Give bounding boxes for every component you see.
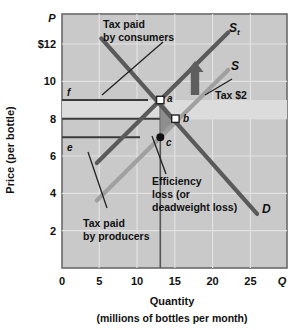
x-tick-25: 25 xyxy=(244,275,256,287)
y-axis-title: Price (per bottle) xyxy=(4,106,16,194)
y-tick-4: 4 xyxy=(50,187,57,199)
y-tick-10: 10 xyxy=(44,75,56,87)
tax-consumers-line2: by consumers xyxy=(103,31,174,43)
tax-producers-line2: by producers xyxy=(83,230,150,242)
point-a-marker xyxy=(157,96,164,103)
efficiency-loss-line3: deadweight loss) xyxy=(152,201,237,213)
annotation-tax-amount: Tax $2 xyxy=(215,89,247,101)
x-tick-10: 10 xyxy=(131,275,143,287)
x-axis-subtitle: (millions of bottles per month) xyxy=(96,312,247,324)
tax-consumers-line1: Tax paid xyxy=(103,18,145,30)
x-tick-5: 5 xyxy=(96,275,102,287)
point-b-marker xyxy=(172,115,179,122)
efficiency-loss-line2: loss (or xyxy=(152,188,190,200)
curve-label-st-sub: t xyxy=(237,28,240,37)
price-label-e: e xyxy=(67,142,73,153)
x-tick-20: 20 xyxy=(206,275,218,287)
x-axis-symbol: Q xyxy=(278,275,287,287)
point-label-c: c xyxy=(166,137,172,148)
supply-demand-tax-chart: P Q $12 10 8 6 4 2 0 5 10 15 20 25 f e a… xyxy=(0,0,296,330)
y-tick-12: $12 xyxy=(38,38,56,50)
y-axis-symbol: P xyxy=(48,12,56,24)
x-tick-0: 0 xyxy=(59,275,65,287)
y-tick-8: 8 xyxy=(50,113,56,125)
efficiency-loss-line1: Efficiency xyxy=(152,175,202,187)
curve-label-supply: S xyxy=(231,59,239,73)
x-axis-title: Quantity xyxy=(150,295,195,307)
y-tick-2: 2 xyxy=(50,225,56,237)
point-c-marker xyxy=(156,133,164,141)
x-tick-15: 15 xyxy=(169,275,181,287)
tax-producers-line1: Tax paid xyxy=(83,217,125,229)
curve-label-st-main: S xyxy=(229,21,237,35)
curve-label-demand: D xyxy=(262,202,271,216)
point-label-b: b xyxy=(183,113,189,124)
y-tick-6: 6 xyxy=(50,150,56,162)
point-label-a: a xyxy=(167,93,173,104)
